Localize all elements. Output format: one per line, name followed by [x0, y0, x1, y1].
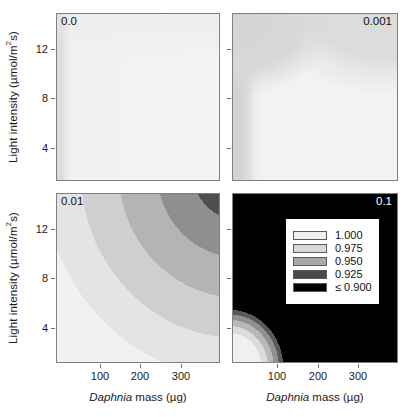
x-axis-label-right: Daphnia mass (µg) [232, 391, 398, 403]
panel-label: 0.01 [61, 196, 83, 208]
y-tick-mark [51, 148, 55, 149]
x-axis-label-left: Daphnia mass (µg) [56, 391, 220, 403]
x-tick-label: 200 [309, 370, 327, 382]
y-tick-mark [227, 229, 231, 230]
y-tick-mark [227, 148, 231, 149]
legend-value: 0.950 [335, 256, 363, 267]
x-tick-label: 300 [349, 370, 367, 382]
x-tick-mark [140, 364, 141, 368]
legend-value: 0.925 [335, 269, 363, 280]
y-tick-mark [227, 98, 231, 99]
y-tick-label: 12 [26, 43, 48, 55]
panel-label: 0.1 [376, 196, 392, 208]
y-tick-label: 4 [26, 142, 48, 154]
legend-swatch [293, 231, 327, 240]
x-tick-label: 300 [172, 370, 190, 382]
y-tick-label: 4 [26, 322, 48, 334]
panel-mortality-0.0: 0.0 [56, 13, 220, 181]
panel-label: 0.0 [61, 16, 77, 28]
y-axis-label-row1: Light intensity (µmol/m2s) [4, 13, 19, 181]
legend-value: 1.000 [335, 230, 363, 241]
legend-item: 0.975 [293, 242, 372, 255]
legend: 1.000 0.975 0.950 0.925 ≤ 0.900 [286, 219, 379, 304]
y-tick-label: 12 [26, 223, 48, 235]
x-tick-mark [358, 364, 359, 368]
legend-swatch [293, 244, 327, 253]
y-axis-label-text-post: s) [7, 212, 19, 222]
y-tick-mark [51, 229, 55, 230]
x-axis-label-rest: mass (µg) [309, 391, 364, 403]
contour-field-overlay [57, 14, 219, 180]
x-tick-label: 200 [131, 370, 149, 382]
x-tick-label: 100 [268, 370, 286, 382]
y-tick-mark [227, 49, 231, 50]
y-tick-mark [227, 278, 231, 279]
y-tick-label: 8 [26, 272, 48, 284]
x-tick-mark [277, 364, 278, 368]
x-tick-label: 100 [91, 370, 109, 382]
panel-mortality-0.001: 0.001 [232, 13, 398, 181]
x-tick-mark [318, 364, 319, 368]
x-tick-mark [100, 364, 101, 368]
legend-swatch [293, 257, 327, 266]
panel-label: 0.001 [363, 16, 392, 28]
y-tick-mark [51, 98, 55, 99]
y-axis-label-row2: Light intensity (µmol/m2s) [4, 193, 19, 363]
legend-value: 0.975 [335, 243, 363, 254]
x-axis-label-genus: Daphnia [266, 391, 309, 403]
x-axis-label-genus: Daphnia [89, 391, 132, 403]
legend-item: ≤ 0.900 [293, 281, 372, 294]
y-axis-label-text-pre: Light intensity (µmol/m [7, 45, 19, 163]
y-tick-mark [51, 278, 55, 279]
y-tick-mark [227, 328, 231, 329]
y-tick-mark [51, 49, 55, 50]
contour-field [57, 194, 219, 362]
panel-mortality-0.1: 1.000 0.975 0.950 0.925 ≤ 0.900 0.1 [232, 193, 398, 363]
y-axis-label-text-post: s) [7, 31, 19, 41]
contour-field-overlay-2 [233, 14, 397, 180]
legend-item: 1.000 [293, 229, 372, 242]
legend-value: ≤ 0.900 [335, 282, 372, 293]
y-axis-label-superscript: 2 [4, 222, 13, 227]
legend-swatch [293, 283, 327, 292]
y-tick-mark [51, 328, 55, 329]
panel-mortality-0.01: 0.01 [56, 193, 220, 363]
legend-item: 0.950 [293, 255, 372, 268]
legend-swatch [293, 270, 327, 279]
x-axis-label-rest: mass (µg) [132, 391, 187, 403]
contour-figure: Light intensity (µmol/m2s) Light intensi… [0, 0, 411, 417]
y-axis-label-superscript: 2 [4, 41, 13, 46]
y-tick-label: 8 [26, 92, 48, 104]
y-axis-label-text-pre: Light intensity (µmol/m [7, 226, 19, 344]
legend-item: 0.925 [293, 268, 372, 281]
x-tick-mark [181, 364, 182, 368]
